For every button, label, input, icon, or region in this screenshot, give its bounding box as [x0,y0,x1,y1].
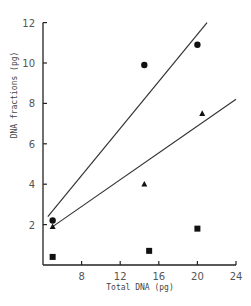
triangle-marker [50,223,56,229]
y-tick-label: 8 [29,98,35,109]
circle-marker [49,217,55,223]
triangle-marker [199,110,205,116]
fit-lines [48,23,236,227]
circles-fit-line [48,23,207,217]
circle-marker [141,62,147,68]
y-tick-label: 6 [29,139,35,150]
x-tick-label: 20 [191,271,204,282]
y-tick-label: 4 [29,179,35,190]
scatter-chart: 24681012812162024 Total DNA (pg) DNA fra… [0,0,251,306]
y-tick-label: 10 [22,58,35,69]
y-tick-label: 12 [22,18,35,29]
data-points [49,42,205,260]
square-marker [194,226,200,232]
square-marker [146,248,152,254]
axes: 24681012812162024 [22,18,242,282]
y-tick-label: 2 [29,220,35,231]
triangles-fit-line [53,99,236,226]
square-marker [50,254,56,260]
circle-marker [194,42,200,48]
x-tick-label: 12 [114,271,127,282]
x-tick-label: 8 [78,271,84,282]
x-axis-title: Total DNA (pg) [106,283,173,292]
x-tick-label: 16 [152,271,165,282]
y-axis-title: DNA fractions (pg) [10,52,19,139]
x-tick-label: 24 [230,271,243,282]
triangle-marker [141,181,147,187]
